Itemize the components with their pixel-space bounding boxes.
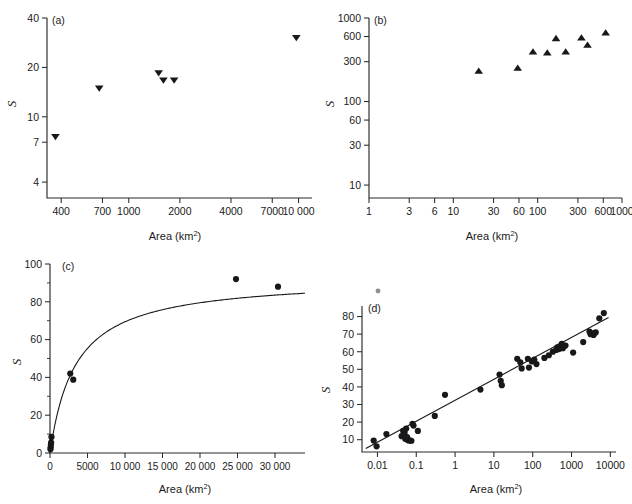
- svg-text:10000: 10000: [596, 459, 625, 471]
- panel-d: 0.010.11101001000100001020304050607080 (…: [316, 250, 632, 504]
- svg-text:0: 0: [36, 447, 42, 459]
- svg-text:3: 3: [406, 205, 412, 217]
- svg-text:50: 50: [342, 363, 354, 375]
- svg-text:4000: 4000: [219, 205, 243, 217]
- panel-a-tag: (a): [52, 14, 65, 26]
- figure-species-area-panels: 400700100020004000700010 00047102040 (a)…: [0, 0, 632, 504]
- panel-b-ylabel: S: [322, 100, 337, 107]
- svg-text:30: 30: [342, 398, 354, 410]
- panel-d-markers: [371, 310, 607, 450]
- svg-text:70: 70: [342, 328, 354, 340]
- svg-text:700: 700: [94, 205, 112, 217]
- svg-text:15 000: 15 000: [147, 461, 178, 472]
- panel-d-xlabel: Area (km2): [470, 482, 522, 495]
- svg-text:30: 30: [349, 139, 361, 151]
- svg-text:7: 7: [33, 136, 39, 148]
- panel-b: 1361030601003006001000103060100300600100…: [312, 0, 632, 252]
- svg-text:100: 100: [524, 459, 542, 471]
- panel-c-plot: 0500010 00015 00020 00025 00030 00002040…: [0, 250, 330, 504]
- svg-text:20: 20: [30, 409, 42, 421]
- panel-b-markers: [474, 29, 610, 74]
- panel-d-plot: 0.010.11101001000100001020304050607080 (…: [316, 250, 632, 504]
- panel-d-axes: 0.010.11101001000100001020304050607080: [342, 306, 625, 471]
- panel-a: 400700100020004000700010 00047102040 (a)…: [0, 0, 320, 252]
- panel-b-xlabel: Area (km2): [466, 229, 518, 242]
- panel-a-axes: 400700100020004000700010 00047102040: [27, 12, 314, 217]
- svg-text:60: 60: [30, 333, 42, 345]
- svg-text:1000: 1000: [560, 459, 584, 471]
- svg-text:60: 60: [513, 205, 525, 217]
- svg-text:10: 10: [488, 459, 500, 471]
- svg-text:300: 300: [569, 205, 587, 217]
- panel-d-ylabel: S: [318, 386, 333, 393]
- svg-text:10: 10: [27, 111, 39, 123]
- svg-text:1: 1: [366, 205, 372, 217]
- panel-c-markers: [47, 276, 281, 452]
- panel-d-tag: (d): [368, 302, 381, 314]
- svg-text:100: 100: [529, 205, 547, 217]
- svg-text:100: 100: [343, 95, 361, 107]
- panel-c-xlabel: Area (km2): [159, 482, 211, 495]
- svg-text:1000: 1000: [117, 205, 141, 217]
- svg-text:1: 1: [452, 459, 458, 471]
- svg-text:1000: 1000: [338, 12, 362, 24]
- svg-text:60: 60: [342, 346, 354, 358]
- svg-text:40: 40: [30, 371, 42, 383]
- svg-text:10: 10: [342, 433, 354, 445]
- svg-text:10: 10: [349, 179, 361, 191]
- svg-text:40: 40: [27, 12, 39, 24]
- svg-text:20: 20: [342, 416, 354, 428]
- svg-text:10: 10: [447, 205, 459, 217]
- svg-text:10 000: 10 000: [282, 205, 314, 217]
- panel-b-tag: (b): [374, 14, 387, 26]
- panel-c-tag: (c): [62, 260, 74, 272]
- svg-text:1000: 1000: [610, 205, 632, 217]
- svg-text:80: 80: [30, 296, 42, 308]
- svg-text:25 000: 25 000: [222, 461, 253, 472]
- svg-text:2000: 2000: [168, 205, 192, 217]
- svg-text:20 000: 20 000: [185, 461, 216, 472]
- svg-text:20: 20: [27, 61, 39, 73]
- panel-a-ylabel: S: [4, 100, 19, 107]
- panel-a-plot: 400700100020004000700010 00047102040 (a)…: [0, 0, 320, 252]
- svg-text:600: 600: [343, 30, 361, 42]
- panel-b-plot: 1361030601003006001000103060100300600100…: [312, 0, 632, 252]
- panel-a-xlabel: Area (km2): [149, 229, 201, 242]
- scan-speck: [376, 289, 381, 294]
- svg-text:60: 60: [349, 114, 361, 126]
- panel-c-axes: 0500010 00015 00020 00025 00030 00002040…: [24, 258, 305, 472]
- svg-text:6: 6: [432, 205, 438, 217]
- svg-text:0.01: 0.01: [367, 459, 388, 471]
- panel-c: 0500010 00015 00020 00025 00030 00002040…: [0, 250, 330, 504]
- svg-text:300: 300: [343, 55, 361, 67]
- svg-text:80: 80: [342, 310, 354, 322]
- svg-text:5000: 5000: [76, 461, 99, 472]
- svg-text:10 000: 10 000: [110, 461, 141, 472]
- panel-c-fit: [50, 293, 305, 453]
- svg-text:30: 30: [488, 205, 500, 217]
- svg-text:40: 40: [342, 381, 354, 393]
- svg-text:0.1: 0.1: [409, 459, 424, 471]
- svg-text:400: 400: [52, 205, 70, 217]
- svg-text:0: 0: [47, 461, 53, 472]
- svg-text:30 000: 30 000: [260, 461, 291, 472]
- svg-text:7000: 7000: [261, 205, 285, 217]
- panel-a-markers: [51, 35, 300, 140]
- svg-text:4: 4: [33, 176, 39, 188]
- panel-c-ylabel: S: [9, 358, 24, 365]
- svg-text:100: 100: [24, 258, 42, 270]
